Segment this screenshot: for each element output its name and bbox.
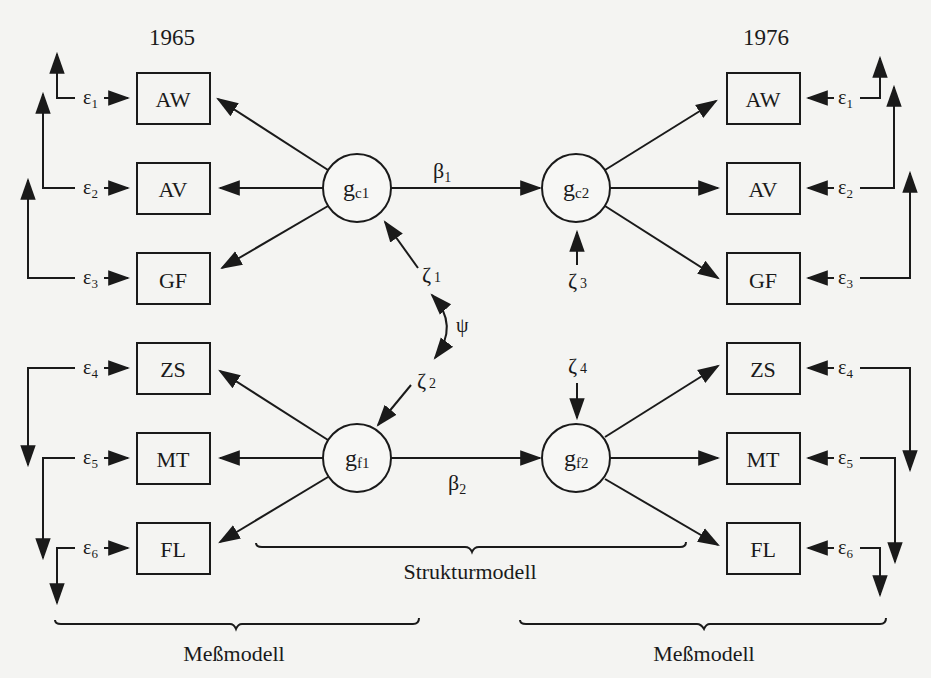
indicator-label: FL bbox=[750, 537, 776, 562]
left-indicators: AW AV GF ZS MT FL bbox=[137, 73, 210, 574]
error-label: ε2 bbox=[838, 176, 853, 201]
indicator-label: AW bbox=[746, 87, 781, 112]
error-label: ε5 bbox=[838, 446, 853, 471]
indicator-label: GF bbox=[159, 268, 187, 293]
indicator-label: AV bbox=[159, 177, 188, 202]
error-label: ε3 bbox=[83, 266, 98, 291]
disturbances: ζ1 ζ2 ζ3 ζ4 ψ bbox=[378, 222, 587, 425]
indicator-label: GF bbox=[749, 268, 777, 293]
error-label: ε5 bbox=[83, 446, 98, 471]
error-label: ε3 bbox=[838, 266, 853, 291]
zeta3-label: ζ3 bbox=[568, 268, 587, 293]
year-left-label: 1965 bbox=[149, 25, 195, 50]
beta1-label: β1 bbox=[433, 158, 451, 185]
psi-label: ψ bbox=[456, 314, 469, 337]
indicator-label: FL bbox=[160, 537, 186, 562]
loadings-left bbox=[218, 99, 328, 542]
zeta4-label: ζ4 bbox=[568, 353, 587, 378]
brace-structural-label: Strukturmodell bbox=[403, 559, 536, 584]
brace-measurement-right bbox=[520, 618, 886, 629]
error-label: ε1 bbox=[83, 86, 98, 111]
brace-measurement-left bbox=[55, 618, 419, 629]
error-label: ε6 bbox=[838, 536, 853, 561]
indicator-label: AW bbox=[156, 87, 191, 112]
indicator-label: MT bbox=[747, 447, 781, 472]
sem-diagram: 1965 1976 AW AV GF ZS MT FL AW AV GF ZS … bbox=[0, 0, 931, 678]
error-label: ε6 bbox=[83, 536, 98, 561]
brace-measurement-left-label: Meßmodell bbox=[183, 641, 284, 666]
indicator-label: MT bbox=[157, 447, 191, 472]
indicator-label: ZS bbox=[160, 357, 186, 382]
error-label: ε1 bbox=[838, 86, 853, 111]
loadings-right bbox=[605, 101, 718, 545]
zeta1-label: ζ1 bbox=[422, 262, 441, 287]
indicator-label: AV bbox=[749, 177, 778, 202]
brace-structural bbox=[256, 542, 686, 552]
error-label: ε4 bbox=[838, 356, 853, 381]
errors-left: ε1 ε2 ε3 ε4 ε5 ε6 bbox=[28, 54, 128, 603]
brace-measurement-right-label: Meßmodell bbox=[653, 641, 754, 666]
zeta2-label: ζ2 bbox=[417, 368, 436, 393]
beta2-label: β2 bbox=[448, 470, 466, 497]
indicator-label: ZS bbox=[750, 357, 776, 382]
right-indicators: AW AV GF ZS MT FL bbox=[727, 73, 800, 574]
error-label: ε4 bbox=[83, 356, 98, 381]
psi-covariance-arrow bbox=[432, 295, 447, 358]
errors-right: ε1 ε2 ε3 ε4 ε5 ε6 bbox=[808, 58, 910, 595]
error-label: ε2 bbox=[83, 176, 98, 201]
year-right-label: 1976 bbox=[743, 25, 789, 50]
